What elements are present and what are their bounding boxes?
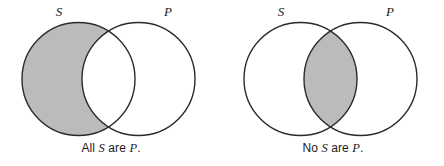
caption-all-s-are-p: All S are P. (0, 141, 222, 156)
caption-prefix: No (302, 141, 321, 155)
caption-predicate: P (129, 141, 137, 155)
caption-predicate: P (352, 141, 360, 155)
caption-middle: are (105, 141, 130, 155)
caption-suffix: . (137, 141, 140, 155)
circle-label-p: P (158, 5, 178, 18)
venn-svg-no-s-are-p (222, 0, 444, 142)
diagram-all-s-are-p: S P All S are P. (0, 0, 222, 166)
venn-diagram-figure: S P All S are P. S P No S are P. (0, 0, 444, 166)
venn-svg-all-s-are-p (0, 0, 222, 142)
caption-middle: are (328, 141, 353, 155)
circle-label-p: P (380, 5, 400, 18)
circle-label-s: S (49, 5, 69, 18)
caption-no-s-are-p: No S are P. (222, 141, 444, 156)
caption-suffix: . (360, 141, 363, 155)
caption-prefix: All (81, 141, 98, 155)
shaded-region-s-only (22, 23, 195, 136)
circle-label-s: S (271, 5, 291, 18)
diagram-no-s-are-p: S P No S are P. (222, 0, 444, 166)
